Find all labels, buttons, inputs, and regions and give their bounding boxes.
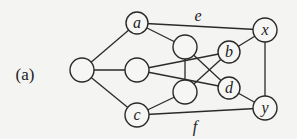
graph-diagram: acbdxy ef (a) (0, 0, 297, 139)
node-circle (173, 80, 197, 104)
node-label: d (225, 79, 234, 96)
node-circle (125, 58, 149, 82)
edge-label-f: f (193, 118, 200, 136)
node-label: a (133, 14, 141, 31)
node-label: x (260, 21, 268, 38)
node-circle (173, 35, 197, 59)
node-c: c (125, 103, 149, 127)
graph-figure: acbdxy ef (a) (0, 0, 297, 139)
figure-caption: (a) (16, 65, 35, 84)
edge-c-y (137, 108, 265, 115)
node-label: c (133, 106, 140, 123)
node-U (173, 35, 197, 59)
edge-a-x (137, 23, 265, 30)
node-circle (70, 58, 94, 82)
node-M (125, 58, 149, 82)
node-y: y (253, 96, 277, 120)
node-x: x (253, 18, 277, 42)
node-label: y (259, 99, 269, 117)
node-L (70, 58, 94, 82)
node-b: b (218, 41, 240, 63)
node-a: a (126, 12, 148, 34)
node-L2 (173, 80, 197, 104)
node-d: d (218, 77, 240, 99)
edge-label-e: e (194, 7, 201, 24)
edges-layer (82, 23, 265, 115)
node-label: b (225, 43, 233, 60)
